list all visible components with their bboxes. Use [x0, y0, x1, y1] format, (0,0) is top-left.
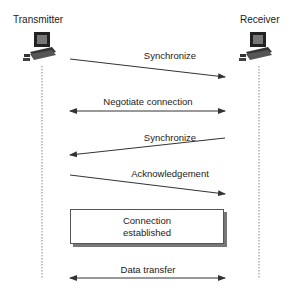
data-transfer-label: Data transfer — [68, 264, 228, 275]
synchronize-arrow-1 — [70, 59, 225, 77]
synchronize-label-1: Synchronize — [90, 50, 250, 61]
connection-established-box: Connection established — [70, 209, 224, 244]
sequence-diagram — [0, 0, 296, 295]
synchronize-label-2: Synchronize — [90, 132, 250, 143]
acknowledgement-label: Acknowledgement — [90, 168, 250, 179]
negotiate-label: Negotiate connection — [68, 96, 228, 107]
box-line-1: Connection — [71, 215, 223, 227]
box-line-2: established — [71, 227, 223, 239]
